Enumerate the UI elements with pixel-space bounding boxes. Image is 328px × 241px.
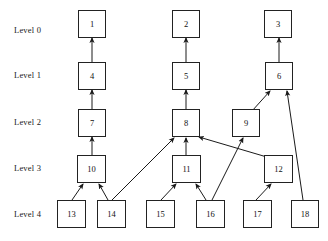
level-label-0: Level 0 bbox=[14, 25, 41, 35]
node-16[interactable]: 16 bbox=[196, 200, 225, 228]
level-label-2: Level 2 bbox=[14, 117, 41, 127]
node-3[interactable]: 3 bbox=[264, 10, 292, 38]
edge-n13-to-n10 bbox=[72, 184, 83, 200]
node-2[interactable]: 2 bbox=[172, 10, 200, 38]
level-label-4: Level 4 bbox=[14, 209, 41, 219]
level-label-3: Level 3 bbox=[14, 163, 41, 173]
edge-n18-to-n6 bbox=[287, 91, 303, 200]
node-17[interactable]: 17 bbox=[243, 200, 272, 228]
node-7[interactable]: 7 bbox=[78, 109, 106, 137]
node-6[interactable]: 6 bbox=[265, 62, 293, 90]
graph-diagram: Level 0 Level 1 Level 2 Level 3 Level 4 … bbox=[0, 0, 328, 241]
node-9[interactable]: 9 bbox=[232, 109, 260, 137]
edge-n14-to-n8 bbox=[112, 138, 174, 200]
node-4[interactable]: 4 bbox=[78, 62, 106, 90]
edge-n17-to-n12 bbox=[256, 184, 271, 200]
node-5[interactable]: 5 bbox=[172, 62, 200, 90]
edge-n16-to-n11 bbox=[196, 184, 206, 200]
node-18[interactable]: 18 bbox=[291, 200, 319, 228]
edge-n14-to-n10 bbox=[99, 184, 108, 200]
edge-n9-to-n6 bbox=[252, 91, 270, 111]
node-10[interactable]: 10 bbox=[77, 155, 106, 183]
node-13[interactable]: 13 bbox=[57, 200, 86, 228]
edge-n16-to-n9 bbox=[212, 138, 243, 200]
node-12[interactable]: 12 bbox=[264, 155, 293, 183]
node-14[interactable]: 14 bbox=[97, 200, 126, 228]
node-15[interactable]: 15 bbox=[146, 200, 175, 228]
edge-n15-to-n11 bbox=[161, 184, 176, 200]
node-11[interactable]: 11 bbox=[172, 155, 201, 183]
node-1[interactable]: 1 bbox=[78, 10, 106, 38]
node-8[interactable]: 8 bbox=[172, 109, 200, 137]
level-label-1: Level 1 bbox=[14, 70, 41, 80]
